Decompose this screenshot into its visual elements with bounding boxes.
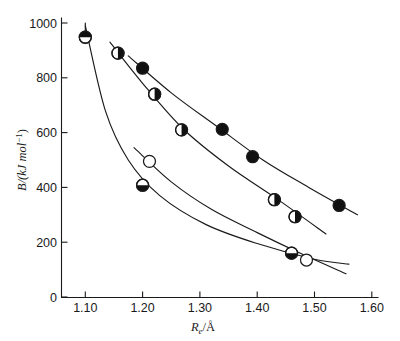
x-axis-tick-labels: 1.10 1.20 1.30 1.40 1.50 1.60 (73, 301, 384, 315)
fit-curve-open-circle-series (134, 148, 346, 274)
x-tick-label: 1.10 (73, 301, 97, 315)
x-tick-label: 1.50 (302, 301, 326, 315)
x-tick-label: 1.60 (360, 301, 384, 315)
data-point-circle-open (300, 254, 312, 266)
data-point-circle-right-half (176, 124, 188, 136)
data-series-layer (79, 23, 357, 274)
y-axis-tick-labels: 1000 800 600 400 200 0 (29, 17, 57, 305)
axis-spines (62, 18, 379, 298)
y-axis-ticks (62, 23, 68, 297)
data-point-circle-right-half (112, 47, 124, 59)
data-point-circle-right-half (289, 211, 301, 223)
y-tick-label: 600 (36, 126, 57, 140)
x-tick-label: 1.30 (188, 301, 212, 315)
y-tick-label: 1000 (29, 17, 57, 31)
scatter-plot: 1000 800 600 400 200 0 1.10 1.20 1.30 1.… (0, 0, 400, 341)
y-tick-label: 200 (36, 236, 57, 250)
data-point-circle-open (143, 155, 155, 167)
data-point-circle-filled (216, 123, 228, 135)
x-axis-title-rest: /Å (203, 320, 216, 334)
y-tick-label: 0 (50, 291, 57, 305)
y-tick-label: 800 (36, 71, 57, 85)
x-tick-label: 1.20 (130, 301, 154, 315)
y-axis-title-superscript: −1 (14, 133, 24, 143)
x-axis-title: Re/Å (190, 320, 215, 336)
data-point-circle-filled (247, 151, 259, 163)
data-point-circle-filled (137, 62, 149, 74)
fit-curve-triple-bond-series (128, 56, 357, 215)
chart-figure: 1000 800 600 400 200 0 1.10 1.20 1.30 1.… (0, 0, 400, 341)
data-point-circle-top-half (79, 31, 91, 43)
y-axis-title-close: ) (15, 129, 29, 133)
data-point-circle-bottom-half (286, 247, 298, 259)
x-axis-ticks (85, 292, 372, 298)
data-point-circle-right-half (268, 194, 280, 206)
y-tick-label: 400 (36, 181, 57, 195)
data-point-circle-filled (333, 199, 345, 211)
y-axis-title: B/(kJ mol−1) (14, 129, 29, 191)
data-point-circle-right-half (149, 88, 161, 100)
x-tick-label: 1.40 (245, 301, 269, 315)
y-axis-title-main: B/(kJ mol (15, 142, 29, 191)
data-point-circle-bottom-half (137, 179, 149, 191)
